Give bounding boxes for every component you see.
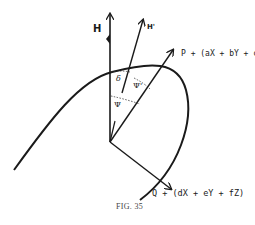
h-flag-mark <box>106 34 110 44</box>
label-h-prime: H' <box>147 24 155 31</box>
curve-arc <box>14 65 188 200</box>
label-angle-psi-prime: Ψ' <box>133 82 142 90</box>
figure-caption: FIG. 35 <box>116 202 143 211</box>
label-angle-delta: δ <box>116 75 121 83</box>
label-h: H <box>93 24 101 34</box>
vector-p <box>110 50 173 142</box>
vector-q <box>110 142 171 189</box>
label-q: Q + (dX + eY + fZ) <box>152 189 244 198</box>
label-p: P + (aX + bY + cZ) <box>181 50 255 58</box>
label-angle-psi: Ψ <box>114 101 121 109</box>
figure-canvas: H H' P + (aX + bY + cZ) Q + (dX + eY + f… <box>0 0 255 225</box>
